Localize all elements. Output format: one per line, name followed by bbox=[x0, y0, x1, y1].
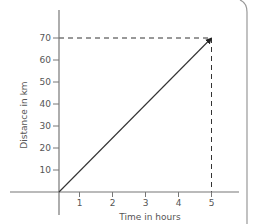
y-axis-ticks: 10203040506070 bbox=[40, 33, 59, 175]
y-tick-label: 10 bbox=[40, 165, 52, 175]
x-tick-label: 3 bbox=[143, 198, 149, 208]
x-axis-ticks: 12345 bbox=[77, 192, 215, 208]
x-axis-label: Time in hours bbox=[118, 212, 181, 222]
y-tick-label: 30 bbox=[40, 121, 52, 131]
frame-border bbox=[240, 0, 247, 224]
y-tick-label: 70 bbox=[40, 33, 52, 43]
y-axis-label: Distance in km bbox=[19, 81, 29, 148]
x-tick-label: 1 bbox=[77, 198, 83, 208]
data-series bbox=[59, 38, 212, 192]
x-tick-label: 4 bbox=[176, 198, 182, 208]
x-tick-label: 2 bbox=[110, 198, 116, 208]
series-line bbox=[59, 38, 212, 192]
x-tick-label: 5 bbox=[209, 198, 215, 208]
y-tick-label: 60 bbox=[40, 55, 52, 65]
distance-time-chart: 10203040506070 12345 Time in hours Dista… bbox=[0, 0, 253, 224]
y-tick-label: 50 bbox=[40, 77, 52, 87]
y-tick-label: 20 bbox=[40, 143, 52, 153]
y-tick-label: 40 bbox=[40, 99, 52, 109]
